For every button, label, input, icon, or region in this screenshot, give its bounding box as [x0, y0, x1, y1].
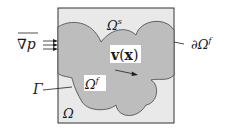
fluid-boundary-label: ∂Ωf [191, 36, 214, 52]
design-domain-label: Ω [62, 106, 74, 121]
velocity-label: v(x) [110, 47, 138, 63]
fluid-domain-diagram: Ωs v(x) Ωf Ω Γ ∂Ωf ∇p [0, 0, 232, 128]
boundary-leader-line [174, 42, 184, 44]
pressure-gradient-label: ∇p [17, 36, 36, 52]
pressure-arrowhead-3 [53, 47, 58, 51]
pressure-arrowhead-2 [53, 43, 58, 47]
pressure-arrows [43, 39, 58, 51]
pressure-arrowhead-1 [53, 39, 58, 43]
interface-label: Γ [32, 81, 44, 97]
